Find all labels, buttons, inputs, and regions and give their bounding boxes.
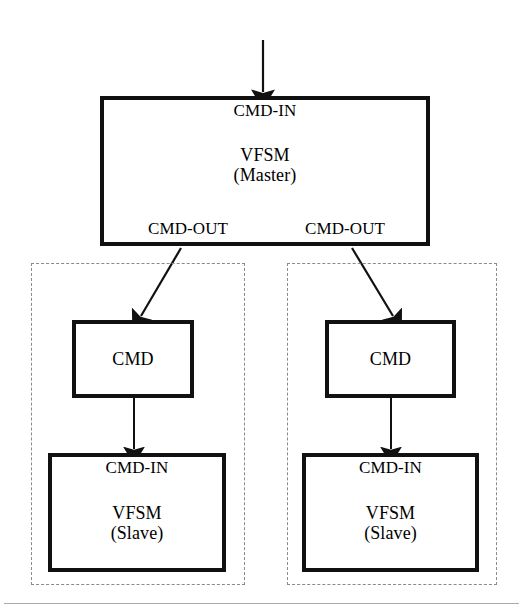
left-slave-title-line2: (Slave) <box>48 523 226 543</box>
master-title-line1: VFSM <box>180 145 350 165</box>
master-cmd-in-label: CMD-IN <box>180 101 350 120</box>
right-slave-title-line1: VFSM <box>302 503 479 523</box>
page-bottom-rule <box>4 603 519 604</box>
right-slave-title: VFSM (Slave) <box>302 503 479 543</box>
left-slave-title: VFSM (Slave) <box>48 503 226 543</box>
right-cmd-box-label: CMD <box>325 349 456 369</box>
master-cmd-out-right-label: CMD-OUT <box>285 219 405 238</box>
master-title: VFSM (Master) <box>180 145 350 185</box>
right-slave-cmd-in-label: CMD-IN <box>302 458 479 477</box>
master-cmd-out-left-label: CMD-OUT <box>128 219 248 238</box>
figure-canvas: CMD-IN VFSM (Master) CMD-OUT CMD-OUT CMD… <box>0 0 523 614</box>
master-title-line2: (Master) <box>180 165 350 185</box>
left-cmd-box-label: CMD <box>72 349 194 369</box>
left-slave-cmd-in-label: CMD-IN <box>48 458 226 477</box>
right-slave-title-line2: (Slave) <box>302 523 479 543</box>
left-slave-title-line1: VFSM <box>48 503 226 523</box>
